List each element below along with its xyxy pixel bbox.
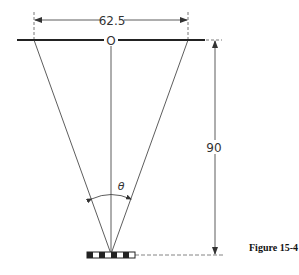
width-dimension: 62.5 [35, 14, 187, 28]
height-label: 90 [206, 141, 221, 155]
width-label: 62.5 [99, 14, 126, 28]
height-dimension: 90 [206, 40, 222, 254]
grating [87, 252, 135, 258]
ray-lines [34, 40, 188, 254]
figure-diagram: 62.5 O θ 90 Figure 15-4 [0, 0, 299, 275]
angle-label: θ [118, 180, 125, 193]
figure-caption: Figure 15-4 [249, 242, 298, 253]
origin-label: O [106, 34, 115, 48]
top-plane-line: O [17, 34, 205, 48]
